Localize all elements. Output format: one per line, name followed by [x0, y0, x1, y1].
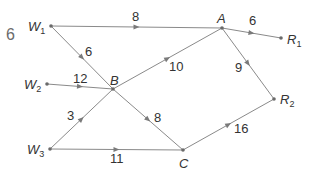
edge-weight: 11: [110, 151, 124, 166]
edge-weight: 6: [249, 13, 256, 28]
node-a: [220, 26, 224, 30]
edge-weight: 3: [67, 108, 74, 123]
node-w1: [49, 24, 53, 28]
node-r1: [279, 36, 283, 40]
edge-weight: 9: [235, 60, 242, 75]
question-number: 6: [6, 26, 15, 43]
edge-weight: 12: [73, 71, 87, 86]
node-w2: [45, 82, 49, 86]
arrow-icon: [244, 60, 252, 68]
network-diagram: 6 86123111086916 W1W2W3ABCR1R2: [0, 0, 311, 173]
node-label-w3: W3: [27, 142, 44, 159]
nodes-group: W1W2W3ABCR1R2: [24, 11, 301, 171]
node-label-c: C: [179, 156, 189, 171]
edge-weight: 10: [169, 59, 183, 74]
node-c: [181, 148, 185, 152]
node-label-w2: W2: [24, 77, 41, 94]
edge-weight: 8: [154, 110, 161, 125]
node-label-b: B: [110, 73, 119, 88]
edge-weight: 6: [85, 44, 92, 59]
arrow-icon: [133, 24, 139, 29]
arrow-icon: [225, 121, 233, 128]
edges-group: 86123111086916: [47, 9, 281, 166]
edge-weight: 8: [132, 9, 139, 24]
node-label-r2: R2: [280, 92, 294, 109]
node-w3: [48, 147, 52, 151]
edge-weight: 16: [234, 121, 248, 136]
node-r2: [272, 97, 276, 101]
node-label-r1: R1: [287, 32, 301, 49]
node-label-a: A: [216, 11, 226, 26]
node-label-w1: W1: [28, 19, 45, 36]
